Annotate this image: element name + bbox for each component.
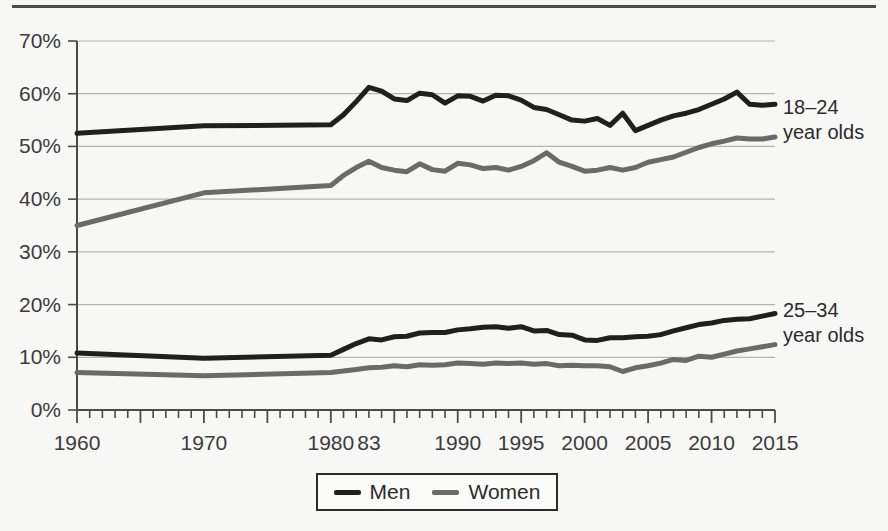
legend-entry-women: Women xyxy=(432,480,540,504)
series-line-women-25-34 xyxy=(77,345,775,376)
y-tick-label: 70% xyxy=(19,29,61,52)
series-annotation-18-24: 18–24 year olds xyxy=(783,95,864,145)
legend-entry-men: Men xyxy=(334,480,411,504)
y-tick-labels: 0%10%20%30%40%50%60%70% xyxy=(19,29,77,421)
series-line-women-18-24 xyxy=(77,137,775,226)
y-tick-label: 50% xyxy=(19,134,61,157)
y-tick-label: 40% xyxy=(19,187,61,210)
chart-svg: 0%10%20%30%40%50%60%70% 1960197019808319… xyxy=(0,0,888,531)
data-series xyxy=(77,87,775,375)
x-tick-label: 2010 xyxy=(688,431,735,454)
x-tick-label: 1970 xyxy=(181,431,228,454)
x-tick-label: 2000 xyxy=(561,431,608,454)
chart-page: 0%10%20%30%40%50%60%70% 1960197019808319… xyxy=(0,0,888,531)
series-line-men-25-34 xyxy=(77,314,775,359)
legend-swatch-women-icon xyxy=(432,490,459,495)
x-tick-label: 2015 xyxy=(752,431,799,454)
annotation-bottom-line1: 25–34 xyxy=(783,298,864,323)
legend-label-men: Men xyxy=(370,480,411,504)
x-tickmarks xyxy=(77,410,775,423)
annotation-top-line2: year olds xyxy=(783,120,864,145)
chart-legend: Men Women xyxy=(316,473,558,511)
y-tick-label: 10% xyxy=(19,345,61,368)
y-tick-label: 20% xyxy=(19,293,61,316)
x-tick-labels: 19601970198083199019952000200520102015 xyxy=(54,431,799,454)
y-tick-label: 0% xyxy=(31,398,61,421)
x-tick-label: 1960 xyxy=(54,431,101,454)
y-tick-label: 30% xyxy=(19,240,61,263)
legend-label-women: Women xyxy=(468,480,540,504)
y-tick-label: 60% xyxy=(19,82,61,105)
x-tick-label: 2005 xyxy=(625,431,672,454)
legend-swatch-men-icon xyxy=(334,490,361,495)
x-tick-label: 1980 xyxy=(307,431,354,454)
line-chart: 0%10%20%30%40%50%60%70% 1960197019808319… xyxy=(0,0,888,531)
series-annotation-25-34: 25–34 year olds xyxy=(783,298,864,348)
annotation-top-line1: 18–24 xyxy=(783,95,864,120)
x-tick-label: 1995 xyxy=(498,431,545,454)
annotation-bottom-line2: year olds xyxy=(783,323,864,348)
x-tick-label: 1990 xyxy=(434,431,481,454)
x-tick-label: 83 xyxy=(357,431,380,454)
